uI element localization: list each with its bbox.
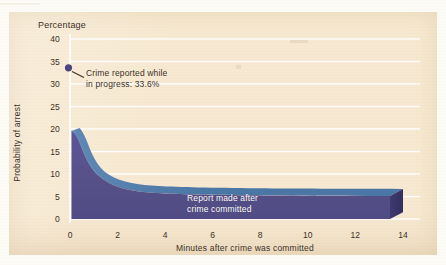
percentage-header-label: Percentage	[38, 20, 86, 30]
y-tick-label: 0	[34, 214, 60, 224]
crime-in-progress-annotation: Crime reported while in progress: 33.6%	[86, 68, 167, 90]
y-tick-label: 20	[34, 124, 60, 134]
x-tick-label: 12	[342, 230, 368, 240]
x-tick-label: 4	[152, 230, 178, 240]
y-tick-label: 30	[34, 79, 60, 89]
y-tick-label: 40	[34, 34, 60, 44]
area-top-band	[72, 128, 404, 196]
x-tick-label: 8	[247, 230, 273, 240]
area-label: Report made after crime committed	[187, 193, 258, 215]
x-tick-label: 10	[295, 230, 321, 240]
y-tick-label: 35	[34, 57, 60, 67]
x-tick-label: 2	[105, 230, 131, 240]
y-axis-title: Probability of arrest	[12, 93, 22, 193]
annotation-leader-line	[72, 72, 84, 78]
y-tick-label: 25	[34, 102, 60, 112]
y-tick-label: 15	[34, 147, 60, 157]
x-tick-label: 6	[200, 230, 226, 240]
y-tick-label: 5	[34, 192, 60, 202]
x-tick-label: 0	[57, 230, 83, 240]
x-axis-title: Minutes after crime was committed	[130, 243, 360, 253]
y-tick-label: 10	[34, 169, 60, 179]
x-tick-label: 14	[390, 230, 416, 240]
plot-canvas	[0, 0, 446, 265]
crime-in-progress-point-marker	[65, 64, 72, 71]
chart-figure: 40 35 30 25 20 15 10 5 0 0 2 4 6 8 10 12…	[0, 0, 446, 265]
